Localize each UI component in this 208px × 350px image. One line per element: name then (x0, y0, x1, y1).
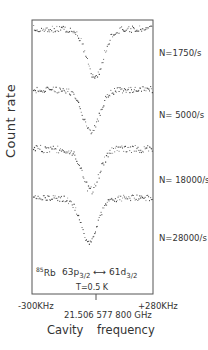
isotope-label: 85Rb (36, 266, 56, 278)
transition-from: 63p (62, 267, 79, 277)
x-axis-label: Cavity frequency (47, 323, 155, 337)
plot-frame (32, 20, 153, 294)
series-label-3: N= 18000/s (159, 175, 208, 185)
x-tick-right: +280KHz (138, 301, 178, 311)
series-label-1: N=1750/s (159, 48, 201, 58)
temperature-label: T=0.5 K (76, 283, 108, 292)
data-traces (33, 25, 153, 245)
x-tick-center: 21.506 577 800 GHz (64, 310, 152, 320)
x-tick-left: -300KHz (18, 301, 54, 311)
series-label-2: N= 5000/s (159, 110, 204, 120)
transition-to: 61d (109, 267, 126, 277)
series-label-4: N=28000/s (159, 233, 207, 243)
transition-label: 63p3/2 ⟷ 61d3/2 (62, 267, 138, 280)
y-axis-label: Count rate (3, 84, 18, 158)
transition-arrow-icon: ⟷ (93, 267, 106, 277)
